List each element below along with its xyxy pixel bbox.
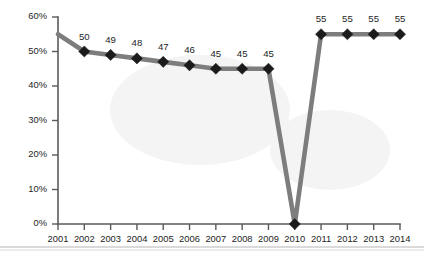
y-tick-label: 30% [28,114,47,125]
x-tick-label: 2003 [100,233,121,244]
data-point-label: 45 [263,48,274,59]
data-point-label: 50 [79,31,90,42]
x-tick-label: 2004 [126,233,147,244]
data-point-label: 46 [184,44,195,55]
y-tick-label: 20% [28,148,47,159]
x-tick-label: 2013 [363,233,384,244]
data-point-label: 49 [105,34,116,45]
data-point-label: 55 [342,13,353,24]
data-point-label: 55 [395,13,406,24]
data-point-label: 47 [158,41,169,52]
x-tick-label: 2010 [284,233,305,244]
data-point-label: 48 [132,37,143,48]
x-tick-label: 2006 [179,233,200,244]
data-point-label: 55 [368,13,379,24]
chart-canvas: 0%10%20%30%40%50%60% 2001200220032004200… [0,0,424,257]
y-tick-label: 60% [28,10,47,21]
data-point-label: 45 [237,48,248,59]
scan-artifact-blob [110,55,290,165]
x-tick-label: 2008 [232,233,253,244]
x-tick-label: 2002 [74,233,95,244]
x-tick-label: 2012 [337,233,358,244]
y-tick-label: 40% [28,79,47,90]
x-tick-label: 2005 [153,233,174,244]
x-tick-label: 2014 [390,233,411,244]
y-tick-label: 50% [28,45,47,56]
x-tick-label: 2009 [258,233,279,244]
x-tick-label: 2011 [311,233,331,244]
data-point-label: 45 [211,48,222,59]
x-tick-label: 2007 [205,233,226,244]
x-tick-label: 2001 [48,233,69,244]
y-tick-label: 10% [28,183,47,194]
y-tick-label: 0% [33,217,47,228]
data-point-label: 55 [316,13,327,24]
line-chart: 0%10%20%30%40%50%60% 2001200220032004200… [0,0,424,257]
